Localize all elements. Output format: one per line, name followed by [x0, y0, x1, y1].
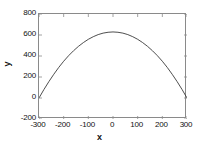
- y-tick-label: 0: [2, 93, 36, 101]
- figure-canvas: 8006004002000-200 -300-200-1000100200300…: [0, 0, 199, 151]
- data-series-curve: [39, 32, 187, 98]
- y-axis-label: y: [2, 49, 12, 79]
- tick-marks-group: [39, 14, 187, 119]
- x-axis-label: x: [0, 132, 199, 142]
- plot-area: [38, 13, 186, 118]
- y-tick-label: 600: [2, 30, 36, 38]
- y-tick-label: 800: [2, 9, 36, 17]
- plot-svg: [39, 14, 187, 119]
- x-tick-label: 300: [168, 121, 199, 129]
